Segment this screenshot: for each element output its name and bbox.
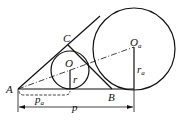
diagram-canvas: A B C O Oa r ra pa p <box>0 0 180 128</box>
label-r: r <box>73 73 78 85</box>
label-C: C <box>63 32 71 44</box>
label-B: B <box>108 91 115 103</box>
label-Oa: Oa <box>130 36 142 50</box>
label-A: A <box>5 83 13 95</box>
label-p: p <box>71 101 78 113</box>
arrow-left <box>19 105 25 109</box>
label-pa: pa <box>34 93 45 107</box>
brace-pa <box>19 91 70 95</box>
label-O: O <box>65 57 73 69</box>
label-ra: ra <box>137 63 145 77</box>
arrow-right <box>127 105 133 109</box>
incircle-excircle-diagram: A B C O Oa r ra pa p <box>0 0 180 128</box>
